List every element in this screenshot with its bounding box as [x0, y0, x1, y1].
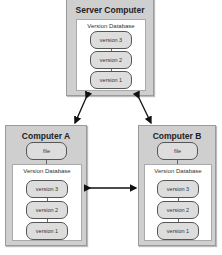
distributed-vcs-diagram: Server Computer Version Database version… — [0, 0, 222, 255]
arrow-server-computer-a — [75, 98, 86, 123]
arrows — [0, 0, 222, 255]
arrow-server-computer-b — [139, 98, 151, 123]
